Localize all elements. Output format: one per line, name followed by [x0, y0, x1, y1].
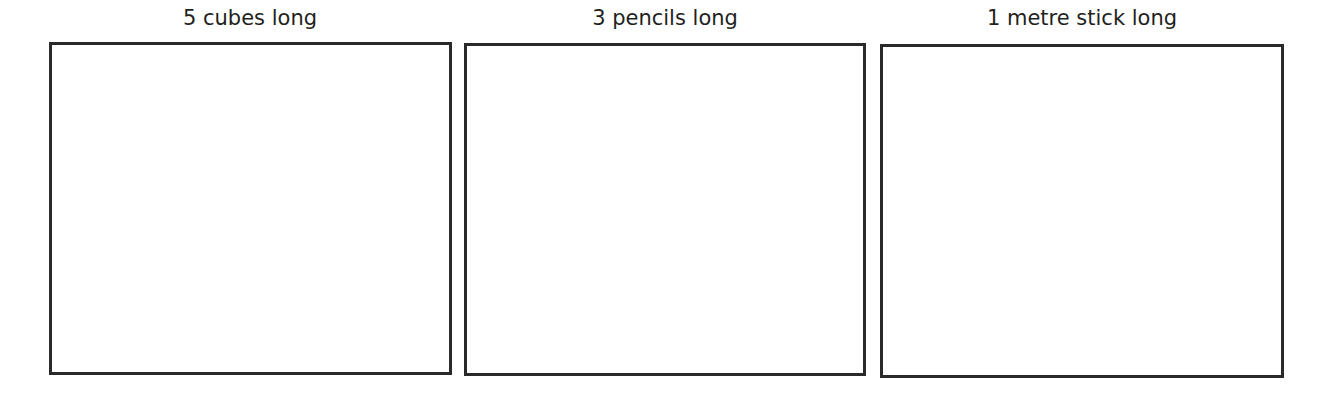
drawing-box-pencils[interactable]	[464, 43, 866, 376]
drawing-box-cubes[interactable]	[49, 42, 452, 375]
panel-label-cubes: 5 cubes long	[49, 6, 451, 30]
panel-label-metre-stick: 1 metre stick long	[880, 6, 1284, 30]
panel-label-pencils: 3 pencils long	[464, 6, 866, 30]
drawing-box-metre-stick[interactable]	[880, 44, 1284, 378]
